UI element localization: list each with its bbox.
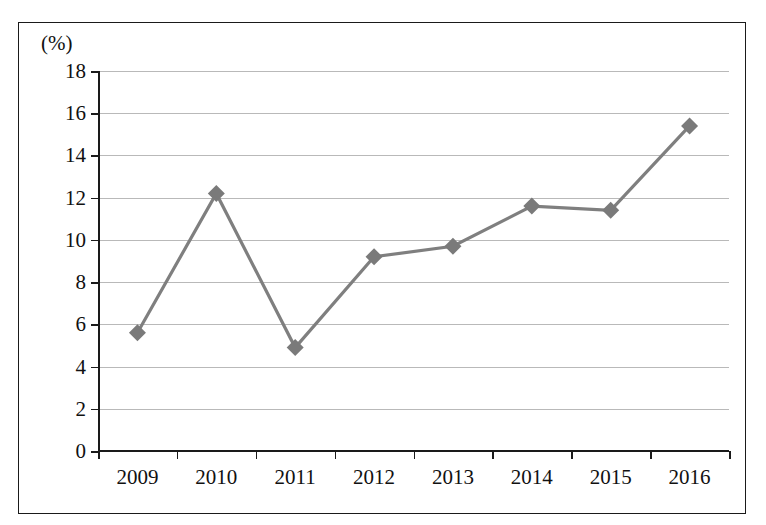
x-tick-label: 2009 [116,465,158,490]
x-tick-label: 2013 [432,465,474,490]
x-tick-mark [256,451,258,459]
series-line [137,126,689,348]
x-tick-mark [571,451,573,459]
x-tick-mark [335,451,337,459]
data-point-marker [208,185,225,202]
x-tick-mark [98,451,100,459]
y-tick-mark [91,451,98,453]
x-tick-label: 2016 [669,465,711,490]
x-tick-label: 2012 [353,465,395,490]
y-tick-mark [91,409,98,411]
data-point-marker [444,238,461,255]
y-tick-label: 6 [76,312,87,337]
plot-area: 181614121086420 200920102011201220132014… [98,71,729,451]
x-tick-mark [414,451,416,459]
data-point-marker [523,198,540,215]
x-tick-label: 2011 [275,465,316,490]
y-tick-mark [91,324,98,326]
x-tick-mark [729,451,731,459]
y-tick-label: 2 [76,396,87,421]
x-tick-mark [650,451,652,459]
x-tick-label: 2014 [511,465,553,490]
y-tick-label: 12 [65,185,86,210]
y-tick-mark [91,240,98,242]
data-series [98,71,729,451]
y-tick-label: 16 [65,101,86,126]
y-tick-mark [91,198,98,200]
y-tick-label: 14 [65,143,86,168]
y-tick-label: 0 [76,439,87,464]
y-tick-mark [91,155,98,157]
x-tick-mark [177,451,179,459]
y-tick-mark [91,71,98,73]
x-tick-label: 2015 [590,465,632,490]
x-tick-mark [492,451,494,459]
y-tick-mark [91,367,98,369]
y-tick-label: 18 [65,59,86,84]
data-point-marker [129,324,146,341]
series-markers [129,117,698,356]
y-tick-mark [91,113,98,115]
y-axis-unit-label: (%) [41,31,72,56]
y-tick-label: 8 [76,270,87,295]
y-tick-mark [91,282,98,284]
chart-figure: (%) 181614121086420 20092010201120122013… [18,22,746,514]
y-tick-label: 10 [65,227,86,252]
y-tick-label: 4 [76,354,87,379]
x-tick-label: 2010 [195,465,237,490]
